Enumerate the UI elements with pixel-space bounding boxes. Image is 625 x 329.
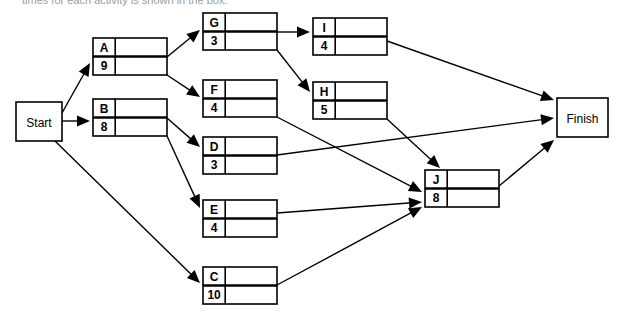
node-J-label: J [433, 173, 440, 187]
node-D-label: D [210, 140, 219, 154]
edge-d-to-finish [277, 114, 554, 155]
node-A-duration: 9 [101, 59, 108, 73]
activity-node-J[interactable]: J8 [425, 170, 499, 207]
activity-node-F[interactable]: F4 [203, 80, 277, 117]
edge-f-to-j [277, 117, 422, 192]
activity-node-D[interactable]: D3 [203, 137, 277, 174]
activity-node-H[interactable]: H5 [313, 82, 387, 119]
edge-g-to-i [277, 26, 310, 37]
edge-c-to-j [277, 207, 422, 285]
activity-node-G[interactable]: G3 [203, 13, 277, 50]
node-I-label: I [322, 21, 325, 35]
edge-j-to-finish [499, 140, 554, 186]
node-E-label: E [210, 203, 218, 217]
activity-node-C[interactable]: C10 [203, 267, 277, 304]
node-G-duration: 3 [211, 34, 218, 48]
activity-node-E[interactable]: E4 [203, 200, 277, 237]
edge-a-to-f [167, 75, 200, 97]
edge-a-to-g [167, 30, 200, 57]
node-I-duration: 4 [321, 39, 328, 53]
edge-h-to-j [387, 119, 440, 168]
activity-node-B[interactable]: B8 [93, 99, 167, 136]
node-F-duration: 4 [211, 101, 218, 115]
node-B-label: B [100, 102, 109, 116]
node-E-duration: 4 [211, 221, 218, 235]
activity-node-I[interactable]: I4 [313, 18, 387, 55]
nodes-layer: A9B8G3F4D3E4C10I4H5J8 [93, 13, 499, 304]
network-diagram-page: times for each activity is shown in the … [0, 0, 625, 329]
node-H-duration: 5 [321, 103, 328, 117]
network-diagram-canvas: A9B8G3F4D3E4C10I4H5J8 StartFinish [0, 0, 625, 329]
node-G-label: G [209, 16, 218, 30]
node-J-duration: 8 [433, 191, 440, 205]
node-B-duration: 8 [101, 120, 108, 134]
edge-g-to-h [277, 50, 310, 92]
edge-start-to-a [62, 63, 90, 113]
node-H-label: H [320, 85, 329, 99]
edge-i-to-finish [387, 41, 554, 101]
node-C-label: C [210, 270, 219, 284]
node-F-label: F [210, 83, 217, 97]
node-D-duration: 3 [211, 158, 218, 172]
terminal-finish-label: Finish [566, 112, 598, 126]
terminal-start-label: Start [26, 116, 52, 130]
activity-node-A[interactable]: A9 [93, 38, 167, 75]
node-A-label: A [100, 41, 109, 55]
terminal-node-finish[interactable]: Finish [557, 98, 608, 137]
edge-b-to-d [167, 118, 200, 147]
edge-start-to-b [62, 115, 90, 126]
node-C-duration: 10 [207, 288, 221, 302]
terminal-node-start[interactable]: Start [16, 102, 62, 141]
edge-e-to-j [277, 197, 422, 213]
edge-start-to-c [55, 141, 200, 283]
edge-b-to-e [167, 136, 200, 208]
